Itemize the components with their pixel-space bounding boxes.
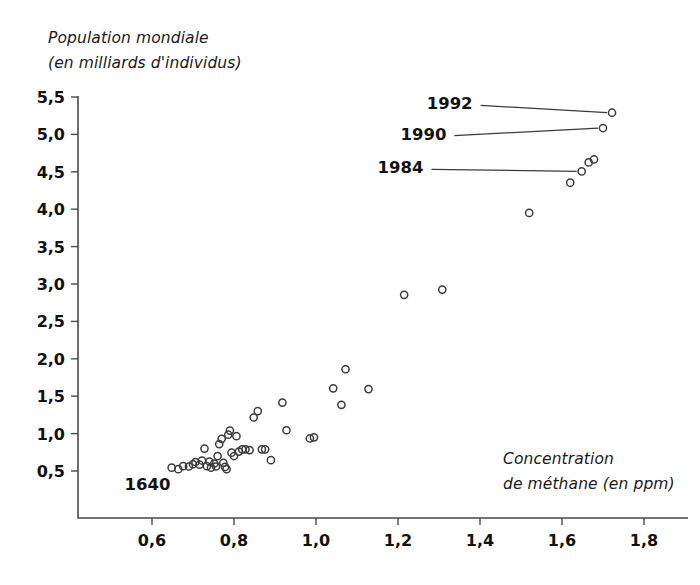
data-point	[283, 427, 290, 434]
x-tick-label: 0,8	[220, 531, 248, 550]
y-tick-label: 4,0	[37, 200, 65, 219]
data-point	[365, 385, 372, 392]
data-point	[233, 433, 240, 440]
x-axis-ticks: 0,60,81,01,21,41,61,8	[138, 518, 658, 550]
data-point	[608, 109, 615, 116]
x-tick-label: 1,6	[548, 531, 576, 550]
data-point	[338, 401, 345, 408]
data-point	[599, 124, 606, 131]
annotations: 1992199019841640	[125, 94, 608, 493]
data-point	[214, 452, 221, 459]
y-tick-label: 2,5	[37, 312, 65, 331]
data-point	[330, 385, 337, 392]
annotation-leader-1992	[481, 105, 607, 112]
x-tick-label: 0,6	[138, 531, 166, 550]
data-point	[201, 445, 208, 452]
y-tick-label: 4,5	[37, 163, 65, 182]
scatter-chart: 0,51,01,52,02,53,03,54,04,55,05,50,60,81…	[0, 0, 700, 585]
y-tick-label: 3,5	[37, 238, 65, 257]
annotation-leader-1990	[454, 128, 598, 136]
y-tick-label: 5,5	[37, 88, 65, 107]
y-axis-title-line1: Population mondiale	[48, 29, 209, 47]
axis-titles: Population mondiale(en milliards d'indiv…	[48, 29, 675, 493]
y-tick-label: 1,0	[37, 425, 65, 444]
data-point	[279, 399, 286, 406]
x-axis-title-line1: Concentration	[503, 450, 614, 468]
data-point	[267, 457, 274, 464]
data-point	[342, 366, 349, 373]
y-axis-title-line2: (en milliards d'individus)	[48, 54, 242, 72]
x-tick-label: 1,8	[630, 531, 658, 550]
data-point	[223, 466, 230, 473]
y-tick-label: 5,0	[37, 125, 65, 144]
data-point	[439, 286, 446, 293]
annotation-label-1984: 1984	[377, 158, 423, 177]
data-point	[567, 179, 574, 186]
x-axis-title-line2: de méthane (en ppm)	[503, 475, 675, 493]
x-tick-label: 1,4	[466, 531, 494, 550]
y-tick-label: 2,0	[37, 350, 65, 369]
data-point	[254, 408, 261, 415]
annotation-label-1990: 1990	[400, 125, 446, 144]
data-point	[526, 209, 533, 216]
data-point	[401, 291, 408, 298]
x-tick-label: 1,0	[302, 531, 330, 550]
annotation-leader-1984	[431, 169, 576, 171]
x-tick-label: 1,2	[384, 531, 412, 550]
y-tick-label: 3,0	[37, 275, 65, 294]
annotation-label-1640: 1640	[125, 475, 171, 494]
y-tick-label: 1,5	[37, 387, 65, 406]
chart-canvas: 0,51,01,52,02,53,03,54,04,55,05,50,60,81…	[0, 0, 700, 585]
y-axis-ticks: 0,51,01,52,02,53,03,54,04,55,05,5	[37, 88, 78, 481]
y-tick-label: 0,5	[37, 462, 65, 481]
annotation-label-1992: 1992	[427, 94, 473, 113]
data-point	[578, 168, 585, 175]
